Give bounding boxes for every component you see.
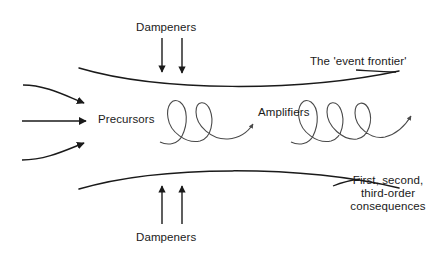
upper-frontier-curve bbox=[79, 68, 399, 86]
label-dampeners-top: Dampeners bbox=[136, 21, 196, 34]
label-precursors: Precursors bbox=[98, 113, 155, 126]
frontier-leader-line bbox=[356, 70, 396, 72]
inflow-arrow-top bbox=[23, 85, 84, 103]
label-consequences: First, second, third-order consequences bbox=[336, 174, 440, 213]
label-amplifiers: Amplifiers bbox=[258, 106, 309, 119]
label-event-frontier: The 'event frontier' bbox=[310, 55, 407, 68]
diagram-canvas: Dampeners Dampeners Precursors Amplifier… bbox=[0, 0, 444, 260]
inflow-arrow-bottom bbox=[22, 143, 84, 160]
diagram-drawing bbox=[0, 0, 444, 260]
consequences-line-3: consequences bbox=[350, 200, 425, 212]
consequences-line-2: third-order bbox=[361, 187, 415, 199]
consequences-line-1: First, second, bbox=[353, 174, 423, 186]
label-dampeners-bottom: Dampeners bbox=[136, 231, 196, 244]
amplifier-spiral-left bbox=[160, 101, 253, 144]
